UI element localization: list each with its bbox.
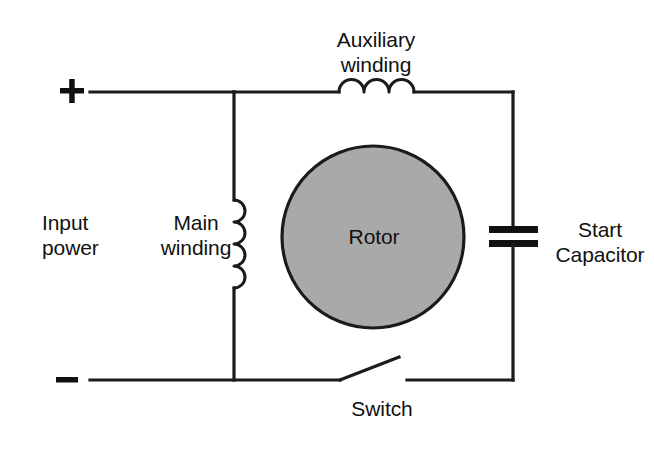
main-winding-inductor xyxy=(234,200,245,288)
positive-terminal-icon xyxy=(60,79,84,103)
start-capacitor-symbol xyxy=(489,230,538,244)
label-auxiliary-winding: Auxiliary winding xyxy=(337,27,415,77)
circuit-diagram-canvas: Auxiliary winding Input power Main windi… xyxy=(0,0,654,449)
negative-terminal-icon xyxy=(56,377,78,383)
centrifugal-switch-blade xyxy=(340,357,399,380)
label-rotor: Rotor xyxy=(349,224,400,249)
auxiliary-winding-inductor xyxy=(339,79,414,92)
label-input-power: Input power xyxy=(42,210,99,260)
label-main-winding: Main winding xyxy=(161,210,232,260)
label-switch: Switch xyxy=(351,396,412,421)
label-start-capacitor: Start Capacitor xyxy=(556,217,645,267)
